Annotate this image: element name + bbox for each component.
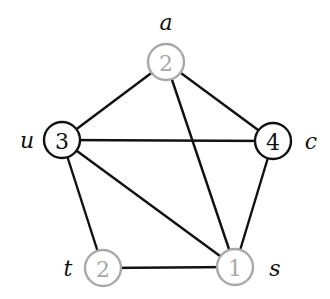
edges-layer (62, 62, 273, 268)
node-value: 2 (159, 51, 173, 76)
edge-u-s (62, 140, 235, 267)
node-label: t (64, 256, 73, 281)
node-label: s (269, 256, 280, 281)
edge-u-c (62, 140, 273, 141)
edge-c-s (235, 141, 273, 267)
node-label: c (305, 129, 317, 154)
node-value: 1 (228, 256, 242, 281)
node-label: u (20, 128, 34, 153)
graph-canvas: 2a3u4c2t1s (0, 0, 330, 299)
edge-u-t (62, 140, 103, 268)
node-c: 4c (255, 123, 317, 159)
node-u: 3u (20, 122, 80, 158)
node-a: 2a (148, 10, 184, 81)
node-label: a (159, 10, 172, 35)
edge-a-s (166, 62, 235, 267)
node-t: 2t (64, 250, 121, 286)
node-s: 1s (217, 249, 281, 285)
node-value: 4 (266, 130, 280, 155)
node-value: 2 (96, 257, 110, 282)
edge-a-c (166, 62, 273, 141)
edge-a-u (62, 62, 166, 140)
nodes-layer: 2a3u4c2t1s (20, 10, 317, 287)
node-value: 3 (55, 129, 69, 154)
edge-t-s (103, 267, 235, 268)
